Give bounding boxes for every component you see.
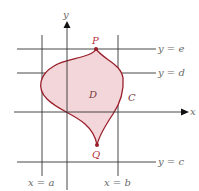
point-p-label: P xyxy=(91,35,99,46)
label-x-equals-b: x = b xyxy=(104,177,131,188)
boundary-c-label: C xyxy=(128,92,136,103)
point-q-label: Q xyxy=(92,149,100,160)
x-axis-arrow-icon xyxy=(181,109,189,116)
point-p xyxy=(94,47,98,51)
label-y-equals-e: y = e xyxy=(157,43,184,54)
region-diagram: y x P Q D C y = e y = d y = c x = a x = … xyxy=(0,0,199,191)
label-y-equals-c: y = c xyxy=(157,156,184,167)
region-d-label: D xyxy=(88,89,97,100)
label-y-equals-d: y = d xyxy=(157,67,185,78)
y-axis-label: y xyxy=(62,9,69,20)
label-x-equals-a: x = a xyxy=(28,177,54,188)
y-axis-arrow-icon xyxy=(64,21,71,28)
region-d xyxy=(41,49,124,145)
point-q xyxy=(95,143,99,147)
x-axis-label: x xyxy=(190,106,196,117)
